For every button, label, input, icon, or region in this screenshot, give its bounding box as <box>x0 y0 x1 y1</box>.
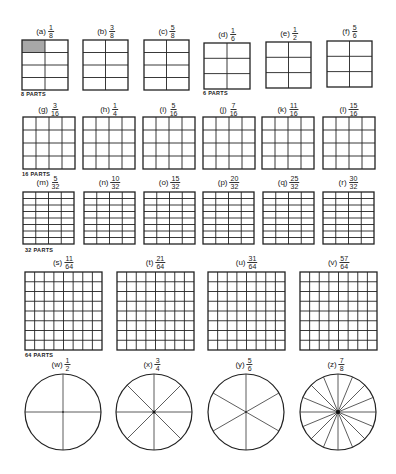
circle-w <box>23 372 103 452</box>
numerator: 57 <box>339 255 349 263</box>
numerator: 5 <box>170 24 176 32</box>
grid-l <box>323 117 375 169</box>
fraction: 1516 <box>349 102 359 117</box>
denominator: 6 <box>230 35 236 42</box>
label-p: (p)2032 <box>218 175 240 190</box>
grid-v <box>300 272 377 350</box>
grid-h <box>83 117 135 169</box>
label-l: (l)1516 <box>340 102 359 117</box>
fraction: 532 <box>51 175 61 190</box>
denominator: 16 <box>289 110 299 117</box>
numerator: 3 <box>52 102 58 110</box>
label-letter: (s) <box>53 258 62 267</box>
fraction: 516 <box>169 102 179 117</box>
label-letter: (l) <box>340 105 347 114</box>
label-d: (d) 16 <box>218 27 236 42</box>
label-letter: (n) <box>99 178 109 187</box>
grid-s <box>25 272 102 350</box>
numerator: 11 <box>65 255 74 263</box>
numerator: 15 <box>349 102 359 110</box>
denominator: 8 <box>48 32 54 39</box>
fraction: 2032 <box>229 175 239 190</box>
numerator: 20 <box>229 175 239 183</box>
fraction: 14 <box>112 102 118 117</box>
numerator: 30 <box>349 175 359 183</box>
grid-p <box>203 192 254 244</box>
label-letter: (h) <box>100 105 110 114</box>
grid-r <box>323 192 374 244</box>
numerator: 1 <box>292 26 298 34</box>
denominator: 6 <box>247 365 253 372</box>
label-u: (u)3164 <box>236 255 258 270</box>
fraction: 1032 <box>110 175 120 190</box>
parts-label-8: 8 PARTS <box>21 91 46 97</box>
fraction: 5764 <box>339 255 349 270</box>
label-a: (a) 18 <box>36 24 54 39</box>
circle-y <box>206 372 286 452</box>
label-letter: (q) <box>278 178 288 187</box>
label-g: (g)316 <box>38 102 60 117</box>
label-f: (f) 56 <box>342 24 357 39</box>
fraction: 716 <box>229 102 239 117</box>
denominator: 8 <box>170 32 176 39</box>
label-o: (o)1532 <box>159 175 181 190</box>
label-letter: (p) <box>218 178 228 187</box>
grid-m <box>23 192 74 244</box>
grid-q <box>263 192 314 244</box>
numerator: 1 <box>230 27 236 35</box>
fraction: 58 <box>170 24 176 39</box>
fraction: 78 <box>339 357 345 372</box>
label-z: (z)78 <box>327 357 344 372</box>
numerator: 21 <box>155 255 165 263</box>
label-k: (k)1116 <box>277 102 298 117</box>
label-letter: (u) <box>236 258 246 267</box>
label-i: (i)516 <box>160 102 179 117</box>
label-letter: (j) <box>220 105 227 114</box>
denominator: 64 <box>64 263 74 270</box>
grid-i <box>143 117 195 169</box>
fraction: 316 <box>50 102 60 117</box>
fraction: 56 <box>352 24 358 39</box>
denominator: 32 <box>289 183 299 190</box>
label-e: (e) 12 <box>280 26 298 41</box>
denominator: 16 <box>229 110 239 117</box>
numerator: 11 <box>289 102 298 110</box>
label-letter: (f) <box>342 27 350 36</box>
label-c: (c) 58 <box>158 24 175 39</box>
fraction: 16 <box>230 27 236 42</box>
denominator: 6 <box>352 32 358 39</box>
numerator: 1 <box>112 102 118 110</box>
grid-e <box>266 42 311 88</box>
fraction: 2532 <box>289 175 299 190</box>
numerator: 25 <box>289 175 299 183</box>
numerator: 5 <box>171 102 177 110</box>
label-x: (x)34 <box>143 357 160 372</box>
fraction: 18 <box>48 24 54 39</box>
label-letter: (w) <box>51 360 62 369</box>
fraction: 3164 <box>247 255 257 270</box>
denominator: 32 <box>170 183 180 190</box>
circle-z <box>298 372 378 452</box>
circle-x <box>114 372 194 452</box>
label-letter: (e) <box>280 29 290 38</box>
label-v: (v)5764 <box>328 255 349 270</box>
fraction: 38 <box>109 24 115 39</box>
denominator: 8 <box>339 365 345 372</box>
label-letter: (b) <box>97 27 107 36</box>
denominator: 64 <box>247 263 257 270</box>
fraction: 12 <box>65 357 71 372</box>
numerator: 3 <box>109 24 115 32</box>
grid-n <box>84 192 135 244</box>
denominator: 8 <box>109 32 115 39</box>
grid-c <box>144 40 189 90</box>
label-m: (m)532 <box>37 175 61 190</box>
denominator: 4 <box>155 365 161 372</box>
denominator: 4 <box>112 110 118 117</box>
numerator: 7 <box>231 102 237 110</box>
label-h: (h)14 <box>100 102 118 117</box>
fraction: 3032 <box>349 175 359 190</box>
label-j: (j)716 <box>220 102 239 117</box>
label-w: (w)12 <box>51 357 70 372</box>
numerator: 1 <box>65 357 71 365</box>
fraction: 12 <box>292 26 298 41</box>
